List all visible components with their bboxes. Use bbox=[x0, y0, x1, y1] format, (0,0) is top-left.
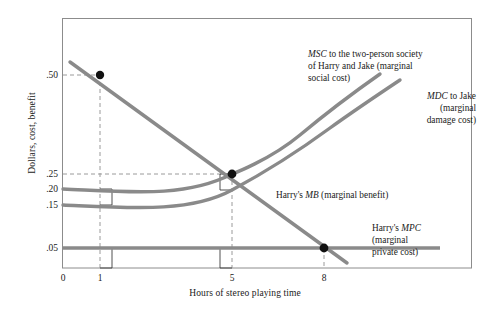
xtick-1: 1 bbox=[89, 273, 111, 283]
annotation-mdc-line3: damage cost) bbox=[427, 115, 476, 125]
annotation-mpc-prefix: Harry's bbox=[372, 223, 401, 233]
dot-mb-at-1 bbox=[96, 71, 104, 79]
economics-externality-chart: .50 .25 .20 .15 .05 0 1 5 8 Dollars, cos… bbox=[0, 0, 490, 313]
annotation-mpc-line3: private cost) bbox=[372, 247, 418, 257]
annotation-mpc-line2: (marginal bbox=[372, 235, 408, 245]
annotation-msc-line1: to the two-person society bbox=[327, 49, 423, 59]
annotation-mb-prefix: Harry's bbox=[276, 190, 305, 200]
ytick-005: .05 bbox=[30, 243, 58, 253]
dot-private-8 bbox=[320, 244, 329, 253]
xtick-5: 5 bbox=[221, 273, 243, 283]
dot-optimum-5 bbox=[228, 170, 237, 179]
annotation-mdc: MDC to Jake (marginal damage cost) bbox=[372, 90, 476, 127]
annotation-msc-line2: of Harry and Jake (marginal bbox=[308, 61, 413, 71]
annotation-mdc-line1: to Jake bbox=[448, 91, 476, 101]
xtick-0: 0 bbox=[52, 273, 74, 283]
annotation-mpc: Harry's MPC (marginal private cost) bbox=[372, 222, 476, 259]
annotation-mdc-line2: (marginal bbox=[440, 103, 476, 113]
annotation-msc-symbol: MSC bbox=[308, 49, 327, 59]
x-axis-title: Hours of stereo playing time bbox=[0, 288, 490, 298]
y-axis-title: Dollars, cost, benefit bbox=[27, 63, 37, 203]
plot-area bbox=[0, 0, 490, 313]
annotation-mb: Harry's MB (marginal benefit) bbox=[276, 189, 476, 201]
annotation-mdc-symbol: MDC bbox=[427, 91, 448, 101]
xtick-8: 8 bbox=[313, 273, 335, 283]
annotation-msc: MSC to the two-person society of Harry a… bbox=[308, 48, 480, 85]
annotation-mb-suffix: (marginal benefit) bbox=[319, 190, 389, 200]
annotation-msc-line3: social cost) bbox=[308, 73, 350, 83]
annotation-mpc-symbol: MPC bbox=[401, 223, 421, 233]
annotation-mb-symbol: MB bbox=[305, 190, 318, 200]
